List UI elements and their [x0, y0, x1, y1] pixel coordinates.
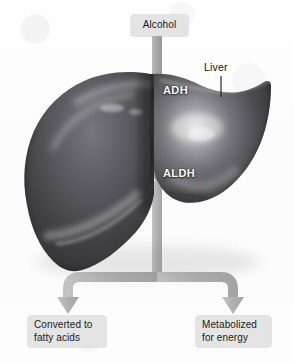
- liver-illustration: [0, 70, 290, 300]
- diagram-canvas: Alcohol ADH ALDH Liver Converted to fatt…: [0, 0, 293, 362]
- right-branch-path: [157, 277, 233, 299]
- converted-to-fatty-acids-label-box: Converted to fatty acids: [28, 316, 106, 347]
- branching-arrow: [68, 277, 233, 299]
- flow-arrow-layer: [0, 0, 293, 362]
- left-output-arrowhead: [57, 297, 79, 314]
- energy-label-text: Metabolized for energy: [202, 319, 257, 344]
- left-lobe-body: [24, 72, 154, 271]
- fatty-acids-line-2: fatty acids: [34, 332, 80, 343]
- interlobar-fissure: [152, 76, 153, 182]
- alcohol-input-label-box: Alcohol: [131, 15, 188, 36]
- energy-line-1: Metabolized: [202, 319, 257, 330]
- metabolized-for-energy-label-box: Metabolized for energy: [196, 316, 271, 347]
- liver-callout-text: Liver: [204, 61, 228, 73]
- left-lobe-speck-a: [100, 104, 124, 112]
- right-lobe-specular-hot: [188, 127, 214, 141]
- fatty-acids-label-text: Converted to fatty acids: [34, 319, 92, 344]
- fatty-acids-line-1: Converted to: [34, 319, 92, 330]
- adh-label-text: ADH: [163, 84, 188, 96]
- aldh-label-text: ALDH: [163, 167, 195, 179]
- right-output-arrowhead: [222, 297, 244, 314]
- energy-line-2: for energy: [202, 332, 248, 343]
- alcohol-label-text: Alcohol: [143, 19, 177, 32]
- aldh-label: ALDH: [163, 167, 195, 179]
- liver-callout-label: Liver: [204, 61, 228, 73]
- adh-label: ADH: [163, 84, 188, 96]
- left-branch-path: [68, 277, 157, 299]
